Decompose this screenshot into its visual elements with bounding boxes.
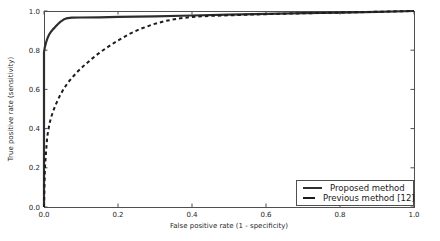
legend-label-proposed: Proposed method bbox=[330, 183, 405, 193]
series-dashed-line bbox=[44, 11, 414, 207]
x-axis-label: False positive rate (1 - specificity) bbox=[170, 222, 288, 230]
dashed-line-sample bbox=[303, 197, 315, 200]
legend-item-previous: Previous method [12] bbox=[303, 193, 409, 203]
y-tick-label: 0.6 bbox=[29, 86, 41, 94]
x-tick-label: 0.2 bbox=[112, 211, 123, 219]
y-axis-label: True positive rate (sensitivity) bbox=[7, 57, 15, 161]
series-solid-line bbox=[44, 11, 414, 207]
y-tick-label: 0.4 bbox=[29, 125, 41, 133]
solid-line-sample bbox=[303, 187, 322, 190]
y-tick-label: 0.2 bbox=[29, 164, 40, 172]
roc-figure: 0.00.20.40.60.81.00.00.20.40.60.81.0 Fal… bbox=[0, 0, 440, 241]
x-tick-label: 0.8 bbox=[334, 211, 345, 219]
legend-item-proposed: Proposed method bbox=[303, 183, 409, 193]
x-tick-label: 1.0 bbox=[408, 211, 419, 219]
x-tick-label: 0.0 bbox=[38, 211, 49, 219]
x-tick-label: 0.6 bbox=[260, 211, 272, 219]
legend-label-previous: Previous method [12] bbox=[323, 193, 415, 203]
x-tick-label: 0.4 bbox=[186, 211, 198, 219]
axes-frame bbox=[44, 11, 414, 207]
y-tick-label: 0.0 bbox=[29, 204, 40, 212]
legend: Proposed method Previous method [12] bbox=[296, 180, 414, 206]
y-tick-label: 0.8 bbox=[29, 47, 40, 55]
y-tick-label: 1.0 bbox=[29, 8, 40, 16]
